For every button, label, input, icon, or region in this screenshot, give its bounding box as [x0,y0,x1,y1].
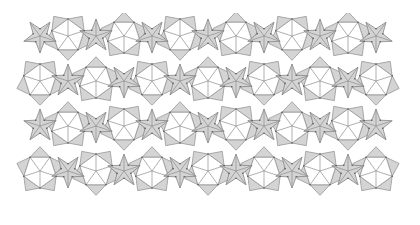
tiling-vertex [319,97,321,99]
tiling-vertex [57,49,59,51]
tiling-vertex [263,132,265,134]
tiling-vertex [273,156,275,158]
tiling-vertex [105,66,107,68]
tiling-vertex [259,41,261,43]
tiling-vertex [23,175,25,177]
tiling-vertex [51,30,53,32]
tiling-vertex [102,37,104,39]
tiling-vertex [189,49,191,51]
tiling-vertex [219,120,221,122]
tiling-vertex [228,78,230,80]
tiling-vertex [163,30,165,32]
tiling-vertex [231,164,233,166]
tiling-vertex [259,119,261,121]
tiling-vertex [214,37,216,39]
tiling-vertex [147,119,149,121]
tiling-vertex [175,74,177,76]
tiling-vertex [158,33,160,35]
tiling-vertex [203,131,205,133]
tiling-vertex [172,82,174,84]
tiling-vertex [225,139,227,141]
tiling-vertex [235,73,237,75]
tiling-vertex [35,119,37,121]
tiling-vertex [95,97,97,99]
tiling-vertex [32,127,34,129]
tiling-vertex [263,63,265,65]
tiling-vertex [235,52,237,54]
tiling-vertex [77,111,79,113]
tiling-vertex [95,118,97,120]
tiling-vertex [263,187,265,189]
tiling-vertex [116,172,118,174]
tiling-vertex [375,63,377,65]
tiling-vertex [107,120,109,122]
tiling-vertex [151,28,153,30]
tiling-vertex [291,87,293,89]
tiling-vertex [235,108,237,110]
tiling-vertex [119,86,121,88]
tiling-vertex [151,63,153,65]
tiling-vertex [139,40,141,42]
tiling-vertex [179,163,181,165]
tiling-vertex [71,74,73,76]
tiling-vertex [79,85,81,87]
tiling-vertex [303,165,305,167]
tiling-vertex [239,86,241,88]
tiling-vertex [88,37,90,39]
tiling-vertex [312,37,314,39]
tiling-vertex [368,127,370,129]
tiling-vertex [371,119,373,121]
tiling-vertex [29,156,31,158]
tiling-vertex [155,119,157,121]
tiling-vertex [207,153,209,155]
tiling-vertex [57,111,59,113]
tiling-vertex [263,28,265,30]
tiling-vertex [256,33,258,35]
tiling-vertex [351,164,353,166]
tiling-vertex [228,172,230,174]
tiling-vertex [211,131,213,133]
tiling-vertex [225,21,227,23]
tiling-vertex [43,119,45,121]
tiling-vertex [340,78,342,80]
tiling-vertex [270,127,272,129]
tiling-vertex [335,165,337,167]
tiling-vertex [111,85,113,87]
tiling-vertex [85,184,87,186]
tiling-vertex [385,94,387,96]
tiling-vertex [127,164,129,166]
tiling-vertex [135,75,137,77]
tiling-vertex [295,176,297,178]
tiling-vertex [281,49,283,51]
tiling-vertex [127,86,129,88]
tiling-vertex [315,131,317,133]
tiling-vertex [105,184,107,186]
tiling-vertex [191,85,193,87]
tiling-vertex [329,184,331,186]
tiling-vertex [200,37,202,39]
tiling-vertex [319,42,321,44]
tiling-vertex [99,131,101,133]
tiling-vertex [323,29,325,31]
tiling-vertex [279,75,281,77]
tiling-vertex [71,176,73,178]
tiling-vertex [379,41,381,43]
tiling-vertex [247,75,249,77]
tiling-vertex [186,168,188,170]
tiling-vertex [195,130,197,132]
tiling-vertex [326,37,328,39]
tiling-vertex [309,184,311,186]
tiling-vertex [95,153,97,155]
tiling-vertex [123,52,125,54]
tiling-vertex [247,175,249,177]
tiling-vertex [337,139,339,141]
tiling-vertex [29,94,31,96]
tiling-vertex [375,187,377,189]
tiling-figure [0,0,420,225]
tiling-vertex [242,172,244,174]
tiling-vertex [291,163,293,165]
tiling-vertex [301,111,303,113]
tiling-vertex [39,28,41,30]
tiling-vertex [79,165,81,167]
tiling-vertex [298,168,300,170]
